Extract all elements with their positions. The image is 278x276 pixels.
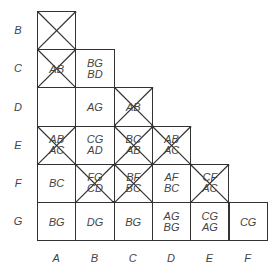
cell-text: BG (38, 216, 75, 227)
cell-pair: BG (153, 222, 190, 233)
row-label-c: C (8, 62, 28, 74)
cell-text: CFAC (191, 172, 228, 194)
cell-d-b: AG (75, 87, 114, 126)
cell-f-d: AFBC (152, 164, 191, 203)
cell-pair: BD (76, 69, 113, 80)
cell-pair: AD (76, 145, 113, 156)
col-label-c: C (123, 252, 143, 264)
cell-text: ABAC (153, 134, 190, 156)
cell-c-a: AB (37, 49, 76, 88)
cell-pair: AB (115, 101, 152, 112)
cell-pair: BC (38, 178, 75, 189)
cell-text: AB (38, 63, 75, 74)
cell-g-f: CG (229, 202, 268, 241)
col-label-f: F (238, 252, 258, 264)
row-label-e: E (8, 139, 28, 151)
cell-pair: BC (115, 183, 152, 194)
cell-pair: CD (76, 183, 113, 194)
implication-table: BCDEFGABCDEFABBGBDAGABABACCGADBCABABACBC… (0, 0, 278, 276)
row-label-b: B (8, 24, 28, 36)
cell-d-a (37, 87, 76, 126)
cell-text: AG (76, 101, 113, 112)
cell-g-a: BG (37, 202, 76, 241)
cell-d-c: AB (114, 87, 153, 126)
cell-text: FGCD (76, 172, 113, 194)
cell-pair: AC (38, 145, 75, 156)
cell-pair: AG (76, 101, 113, 112)
cell-pair: CG (230, 216, 267, 227)
cell-text: BFBC (115, 172, 152, 194)
cell-e-a: ABAC (37, 126, 76, 165)
cell-f-b: FGCD (75, 164, 114, 203)
cell-text: BC (38, 178, 75, 189)
cell-g-e: CGAG (190, 202, 229, 241)
cell-text: DG (76, 216, 113, 227)
col-label-b: B (84, 252, 104, 264)
cell-text: ABAC (38, 134, 75, 156)
cell-pair: DG (76, 216, 113, 227)
cell-c-b: BGBD (75, 49, 114, 88)
cell-f-e: CFAC (190, 164, 229, 203)
cell-text: CG (230, 216, 267, 227)
cell-pair: AG (191, 222, 228, 233)
cell-g-d: AGBG (152, 202, 191, 241)
cell-f-a: BC (37, 164, 76, 203)
cell-g-c: BG (114, 202, 153, 241)
cell-e-c: BCAB (114, 126, 153, 165)
cell-text: CGAG (191, 211, 228, 233)
cell-pair: AC (191, 183, 228, 194)
cell-pair: AB (38, 63, 75, 74)
cell-text: BG (115, 216, 152, 227)
cell-pair: AC (153, 145, 190, 156)
cell-text: AFBC (153, 172, 190, 194)
col-label-d: D (161, 252, 181, 264)
row-label-g: G (8, 215, 28, 227)
cell-pair: AB (115, 145, 152, 156)
col-label-a: A (46, 252, 66, 264)
row-label-f: F (8, 177, 28, 189)
col-label-e: E (199, 252, 219, 264)
cell-g-b: DG (75, 202, 114, 241)
cell-text: BCAB (115, 134, 152, 156)
cell-b-a (37, 11, 76, 50)
cross-out-icon (38, 12, 75, 49)
cell-text: BGBD (76, 58, 113, 80)
cell-pair: BG (38, 216, 75, 227)
cell-text: AGBG (153, 211, 190, 233)
cell-f-c: BFBC (114, 164, 153, 203)
cell-text: AB (115, 101, 152, 112)
cell-text: CGAD (76, 134, 113, 156)
row-label-d: D (8, 101, 28, 113)
cell-pair: BG (115, 216, 152, 227)
cell-e-d: ABAC (152, 126, 191, 165)
cell-pair: BC (153, 183, 190, 194)
cell-e-b: CGAD (75, 126, 114, 165)
